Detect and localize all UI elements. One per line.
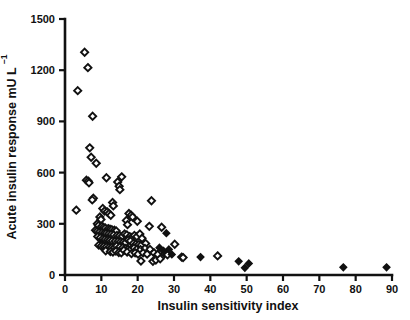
data-point xyxy=(86,144,93,151)
x-tick-label: 50 xyxy=(241,283,253,295)
y-tick-label: 300 xyxy=(37,218,55,230)
x-tick-label: 60 xyxy=(277,283,289,295)
x-tick-label: 40 xyxy=(204,283,216,295)
data-point xyxy=(148,197,155,204)
y-axis-title: Acute insulin response mU L −1 xyxy=(0,54,19,239)
data-point xyxy=(74,87,81,94)
x-tick-label: 20 xyxy=(132,283,144,295)
x-tick-label: 30 xyxy=(168,283,180,295)
data-point xyxy=(383,264,389,270)
y-tick-label: 600 xyxy=(37,167,55,179)
x-axis-ticks: 0102030405060708090 xyxy=(62,275,398,295)
data-point xyxy=(158,224,165,231)
y-tick-label: 0 xyxy=(49,269,55,281)
x-tick-label: 70 xyxy=(313,283,325,295)
data-point xyxy=(146,223,153,230)
x-tick-label: 90 xyxy=(386,283,398,295)
data-points-layer xyxy=(73,49,390,271)
data-point xyxy=(103,174,110,181)
scatter-plot-figure: 030060090012001500 0102030405060708090 I… xyxy=(0,0,410,320)
data-point xyxy=(171,241,178,248)
y-tick-label: 900 xyxy=(37,115,55,127)
chart-canvas: 030060090012001500 0102030405060708090 I… xyxy=(0,0,410,320)
data-point xyxy=(81,49,88,56)
data-point xyxy=(84,64,91,71)
y-tick-label: 1200 xyxy=(31,64,55,76)
data-point xyxy=(88,154,95,161)
data-point xyxy=(163,230,169,236)
data-point xyxy=(214,252,221,259)
data-point xyxy=(340,264,346,270)
data-point xyxy=(73,207,80,214)
x-axis-title: Insulin sensitivity index xyxy=(157,299,298,313)
data-point xyxy=(197,254,203,260)
y-axis-ticks: 030060090012001500 xyxy=(31,13,65,281)
x-tick-label: 10 xyxy=(95,283,107,295)
y-tick-label: 1500 xyxy=(31,13,55,25)
data-point xyxy=(89,113,96,120)
x-tick-label: 80 xyxy=(350,283,362,295)
x-tick-label: 0 xyxy=(62,283,68,295)
data-point xyxy=(93,160,100,167)
data-point xyxy=(235,258,241,264)
